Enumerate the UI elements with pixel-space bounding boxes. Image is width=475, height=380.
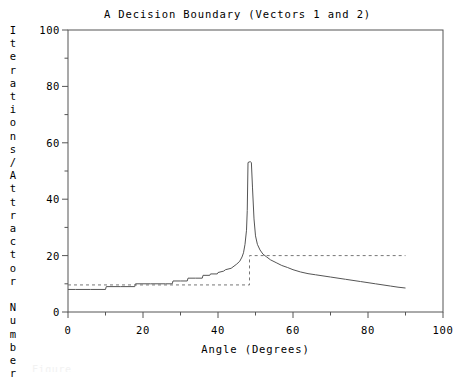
data-series-group <box>68 162 406 290</box>
y-tick-label: 80 <box>30 80 60 92</box>
y-tick-label: 40 <box>30 193 60 205</box>
x-tick-label: 100 <box>433 324 454 336</box>
axis-ticks <box>62 30 443 318</box>
x-tick-label: 80 <box>361 324 375 336</box>
data-series-line <box>68 162 406 290</box>
x-tick-label: 0 <box>65 324 72 336</box>
y-tick-label: 0 <box>30 306 60 318</box>
y-tick-label: 20 <box>30 250 60 262</box>
x-tick-label: 20 <box>136 324 150 336</box>
x-tick-label: 60 <box>286 324 300 336</box>
cut-off-caption: Figure <box>32 364 452 372</box>
y-tick-label: 60 <box>30 137 60 149</box>
y-tick-label: 100 <box>30 24 60 36</box>
plot-frame <box>68 30 443 312</box>
x-tick-label: 40 <box>211 324 225 336</box>
